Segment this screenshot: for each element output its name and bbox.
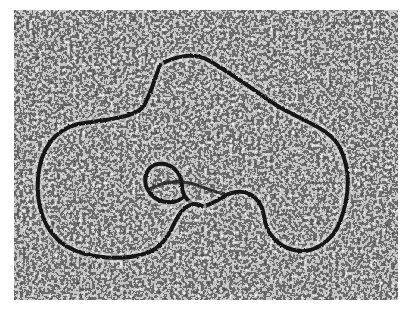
electron-micrograph: [14, 10, 398, 300]
micrograph-canvas: [14, 10, 398, 300]
